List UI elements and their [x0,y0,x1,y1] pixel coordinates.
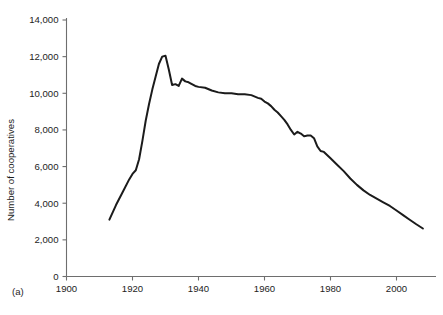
x-tick-label: 2000 [386,283,407,294]
y-axis-label: Number of cooperatives [5,119,16,221]
panel-label: (a) [12,286,24,297]
y-tick-label: 2,000 [34,234,58,245]
x-tick-label: 1920 [122,283,143,294]
y-tick-label: 4,000 [34,198,58,209]
x-tick-label: 1960 [254,283,275,294]
figure-panel-a: Number of cooperatives 02,0004,0006,0008… [0,0,443,315]
series-number-of-cooperatives [109,56,423,229]
y-axis: 02,0004,0006,0008,00010,00012,00014,000 [29,14,66,282]
x-tick-label: 1900 [56,283,77,294]
x-tick-group: 190019201940196019802000 [56,277,407,294]
y-tick-label: 8,000 [34,124,58,135]
y-tick-label: 6,000 [34,161,58,172]
data-series-group [109,56,423,229]
y-tick-group: 02,0004,0006,0008,00010,00012,00014,000 [29,14,66,282]
x-tick-label: 1980 [320,283,341,294]
line-chart: Number of cooperatives 02,0004,0006,0008… [0,0,443,315]
y-tick-label: 14,000 [29,14,58,25]
y-tick-label: 10,000 [29,88,58,99]
y-tick-label: 12,000 [29,51,58,62]
x-tick-label: 1940 [188,283,209,294]
y-tick-label: 0 [53,271,58,282]
y-axis-label-text: Number of cooperatives [5,119,16,221]
x-axis: 190019201940196019802000 [56,277,436,294]
